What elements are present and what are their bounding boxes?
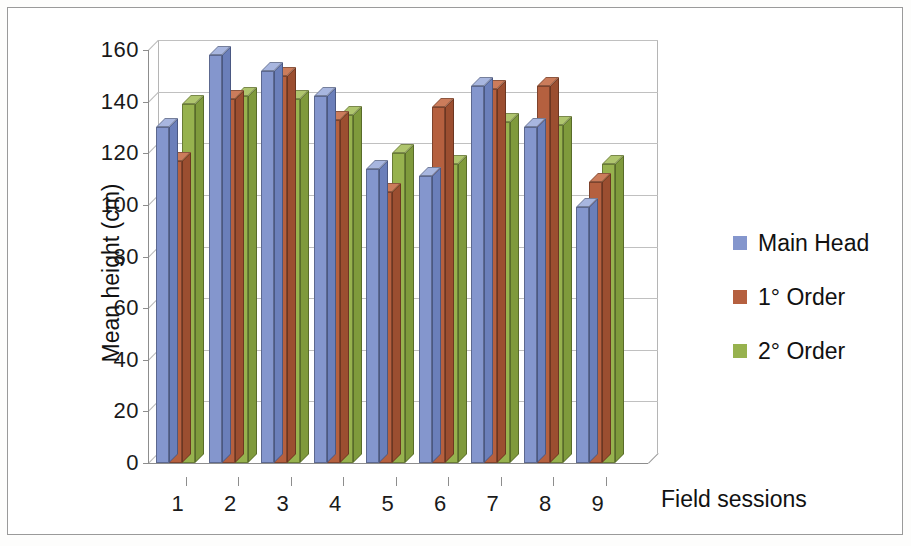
y-axis-tick (143, 360, 148, 361)
bar-side (405, 144, 414, 463)
bar-side (248, 87, 257, 463)
y-axis-tick-label: 140 (101, 89, 139, 115)
x-axis-tick (448, 477, 449, 486)
bar-side (235, 90, 244, 463)
y-axis-tick (143, 102, 148, 103)
plot-area: 020406080100120140160 123456789 (148, 50, 648, 463)
x-axis-tick (396, 477, 397, 486)
bar[interactable] (471, 86, 484, 463)
bar-side (222, 46, 231, 463)
bar[interactable] (156, 127, 169, 463)
chart-figure: Mean height (cm) Field sessions 02040608… (0, 0, 911, 546)
bar-side (182, 152, 191, 463)
x-axis-tick-label: 3 (276, 491, 288, 517)
bar-face (576, 207, 589, 463)
x-axis-tick-label: 6 (434, 491, 446, 517)
bar-side (353, 106, 362, 463)
bar-side (550, 77, 559, 463)
x-axis-tick (553, 477, 554, 486)
bar-side (602, 173, 611, 463)
bar[interactable] (576, 207, 589, 463)
bar-side (274, 62, 283, 463)
x-axis-tick-label: 9 (591, 491, 603, 517)
y-axis-tick (143, 308, 148, 309)
bar-side (392, 183, 401, 463)
bar[interactable] (419, 176, 432, 463)
chart-legend: Main Head1° Order2° Order (733, 216, 903, 378)
x-axis-tick (186, 477, 187, 486)
legend-item[interactable]: 1° Order (733, 270, 903, 324)
x-axis-tick (291, 477, 292, 486)
y-axis-tick-label: 20 (114, 398, 139, 424)
x-axis-tick-label: 5 (381, 491, 393, 517)
legend-swatch-icon (733, 236, 747, 250)
x-axis-tick (238, 477, 239, 486)
bar-side (327, 87, 336, 463)
bar-side (287, 67, 296, 463)
x-axis-tick-label: 8 (539, 491, 551, 517)
x-axis-tick-label: 2 (224, 491, 236, 517)
x-axis-tick (606, 477, 607, 486)
bar-side (169, 118, 178, 463)
y-axis-line (148, 50, 149, 464)
y-axis-tick-label: 0 (126, 450, 139, 476)
bar[interactable] (209, 55, 222, 463)
x-axis-tick (501, 477, 502, 486)
floor-front-edge (148, 463, 648, 464)
bar-side (445, 98, 454, 463)
legend-swatch-icon (733, 344, 747, 358)
y-axis-tick (143, 153, 148, 154)
bar-face (524, 127, 537, 463)
bar-side (195, 95, 204, 463)
bar[interactable] (366, 169, 379, 463)
bar-side (340, 111, 349, 463)
bar-face (261, 71, 274, 463)
bar-side (510, 113, 519, 463)
bar-side (432, 167, 441, 463)
y-axis-tick (143, 257, 148, 258)
legend-label: 1° Order (758, 284, 845, 311)
y-axis-tick-label: 120 (101, 140, 139, 166)
plot-floor: 123456789 (148, 463, 658, 475)
x-axis-tick-label: 7 (486, 491, 498, 517)
bar[interactable] (261, 71, 274, 463)
y-axis-tick (143, 205, 148, 206)
legend-item[interactable]: 2° Order (733, 324, 903, 378)
legend-label: Main Head (758, 230, 869, 257)
bar-face (471, 86, 484, 463)
bar[interactable] (314, 96, 327, 463)
x-axis-tick-label: 4 (329, 491, 341, 517)
legend-item[interactable]: Main Head (733, 216, 903, 270)
bar-side (300, 90, 309, 463)
bar-face (419, 176, 432, 463)
y-axis-tick-label: 60 (114, 295, 139, 321)
legend-label: 2° Order (758, 338, 845, 365)
y-axis-tick-label: 160 (101, 37, 139, 63)
bar-side (458, 155, 467, 463)
bar-face (366, 169, 379, 463)
y-axis-tick-label: 80 (114, 244, 139, 270)
x-axis-tick (343, 477, 344, 486)
x-axis-title: Field sessions (661, 486, 807, 513)
bar-side (497, 80, 506, 463)
y-axis-tick-label: 100 (101, 192, 139, 218)
bar-face (156, 127, 169, 463)
bar[interactable] (524, 127, 537, 463)
y-axis-tick (143, 50, 148, 51)
legend-swatch-icon (733, 290, 747, 304)
bar-side (484, 77, 493, 463)
x-axis-tick-label: 1 (171, 491, 183, 517)
y-axis-tick (143, 411, 148, 412)
bar-face (209, 55, 222, 463)
gridline (158, 40, 658, 41)
bar-side (537, 118, 546, 463)
bar-side (379, 160, 388, 463)
bar-face (314, 96, 327, 463)
bar-side (615, 155, 624, 463)
y-axis-tick-label: 40 (114, 347, 139, 373)
bar-side (563, 116, 572, 463)
bar-side (589, 198, 598, 463)
